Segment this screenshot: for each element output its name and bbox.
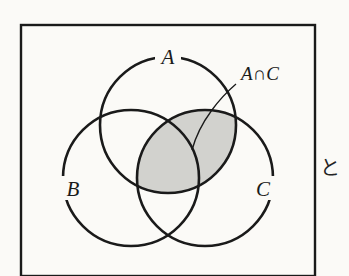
set-label-b: B (67, 177, 80, 201)
margin-character: と (320, 156, 340, 180)
venn-diagram-figure: A B C A∩C と (0, 0, 349, 276)
figure-page: A B C A∩C と (0, 0, 349, 276)
set-label-c: C (256, 177, 271, 201)
annotation-label-a-intersect-c: A∩C (239, 63, 279, 84)
set-label-a: A (160, 45, 175, 69)
